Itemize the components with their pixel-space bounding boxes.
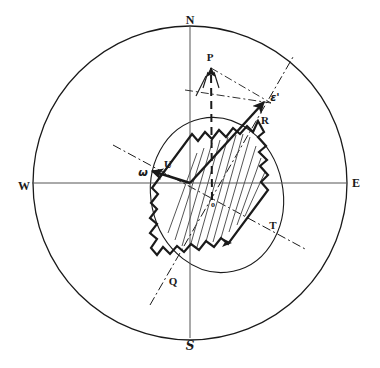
label-north: N	[186, 14, 195, 26]
label-east: E	[352, 177, 360, 189]
label-point-r: R	[261, 115, 269, 126]
label-point-omega: ω	[138, 167, 148, 178]
label-point-epsilon-prime: ε'	[270, 92, 280, 103]
crystal-hatch-line	[221, 137, 250, 238]
label-point-q: Q	[169, 276, 178, 287]
diagram-canvas	[0, 0, 380, 368]
crystal-optics-diagram: N E S W P ε' R U ω o T Q	[0, 0, 380, 368]
crystal-hatch-line	[182, 143, 212, 246]
label-point-origin: o	[211, 201, 215, 209]
label-west: W	[18, 180, 30, 192]
crystal-hatch-line	[168, 153, 197, 233]
label-south: S	[186, 340, 195, 352]
label-point-u: U	[164, 159, 172, 170]
label-point-t: T	[269, 220, 276, 231]
dash-dot-parallelogram-P-epsilon	[211, 68, 271, 103]
dashed-vector-OP	[211, 68, 212, 200]
crystal-hatch-line	[229, 146, 256, 232]
label-point-p: P	[207, 52, 214, 63]
feather-arrows-at-P	[196, 72, 219, 96]
